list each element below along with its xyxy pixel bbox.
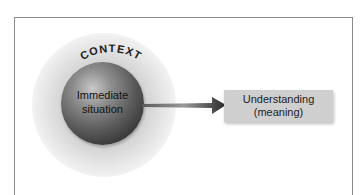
sphere-label: Immediate situation	[61, 88, 144, 116]
result-label-line2: (meaning)	[224, 106, 333, 119]
result-label-line1: Understanding	[224, 93, 333, 106]
svg-text:CONTEXT: CONTEXT	[78, 42, 144, 62]
arrow-icon	[142, 95, 232, 117]
context-label: CONTEXT	[78, 42, 144, 62]
sphere-label-line1: Immediate	[61, 88, 144, 102]
understanding-box: Understanding (meaning)	[224, 90, 333, 122]
sphere-label-line2: situation	[61, 102, 144, 116]
